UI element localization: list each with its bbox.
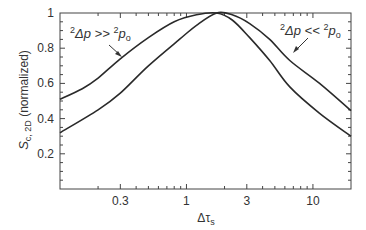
line-chart: 0.20.40.60.81 0.31310 Sc, 2D (normalized… [0, 0, 366, 230]
x-tick-label: 10 [306, 194, 320, 208]
x-tick-label: 1 [183, 194, 190, 208]
x-tick-label: 3 [243, 194, 250, 208]
y-tick-label: 0.8 [37, 41, 54, 55]
arrow-icon-right [293, 38, 308, 53]
annotation-dp-much-greater: 2Δp >> 2po [70, 25, 131, 43]
x-axis-title: Δτs [197, 211, 215, 227]
annotation-dp-much-less: 2Δp << 2po [280, 22, 341, 40]
chart-canvas: 0.20.40.60.81 0.31310 Sc, 2D (normalized… [0, 0, 366, 230]
y-tick-label: 0.6 [37, 76, 54, 90]
x-axis-ticks: 0.31310 [98, 13, 320, 208]
y-tick-label: 1 [47, 6, 54, 20]
x-tick-label: 0.3 [112, 194, 129, 208]
y-tick-label: 0.4 [37, 112, 54, 126]
arrow-icon-left [109, 45, 122, 57]
y-axis-title: Sc, 2D (normalized) [16, 50, 33, 150]
y-tick-label: 0.2 [37, 147, 54, 161]
